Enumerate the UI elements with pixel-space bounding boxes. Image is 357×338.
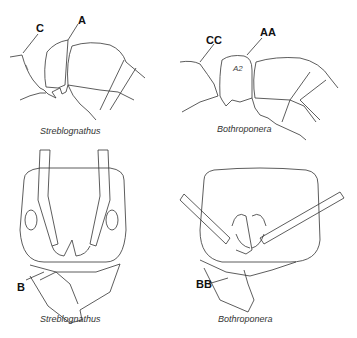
label-cc: CC — [206, 34, 222, 46]
caption-streblognathus-top: Streblognathus — [40, 126, 101, 136]
caption-bothroponera-bottom: Bothroponera — [218, 314, 273, 324]
label-c: C — [36, 22, 44, 34]
caption-bothroponera-top: Bothroponera — [217, 124, 272, 134]
label-a2: A2 — [233, 64, 243, 73]
ant-morphology-figure — [0, 0, 357, 338]
label-b: B — [17, 281, 25, 293]
leader-line-cc — [200, 44, 214, 62]
leader-line-b — [26, 272, 44, 280]
streblognathus-lateral-drawing — [10, 40, 145, 120]
label-a: A — [78, 14, 86, 26]
leader-line-c — [23, 34, 38, 53]
label-aa: AA — [260, 26, 276, 38]
streblognathus-head-drawing — [20, 150, 126, 323]
leader-line-a — [68, 24, 78, 40]
bothroponera-head-drawing — [180, 168, 344, 312]
caption-streblognathus-bottom: Streblognathus — [40, 314, 101, 324]
label-bb: BB — [196, 278, 212, 290]
leader-line-aa — [247, 38, 262, 55]
